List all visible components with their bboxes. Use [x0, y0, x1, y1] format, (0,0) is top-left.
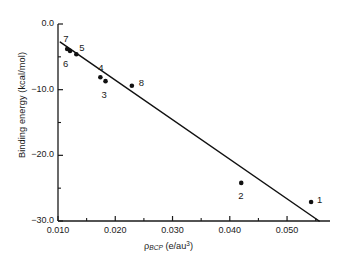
- data-point-label-1: 1: [317, 194, 322, 205]
- y-tick-label: −20.0: [16, 149, 54, 159]
- x-tick-label: 0.030: [151, 225, 195, 235]
- y-tick-label: −30.0: [16, 215, 54, 225]
- binding-energy-vs-rho-bcp-chart: Binding energy (kcal/mol) ρBCP (e/au3) 0…: [0, 0, 337, 268]
- axes: [58, 24, 330, 221]
- data-point-label-4: 4: [98, 62, 103, 73]
- data-point-label-2: 2: [238, 190, 243, 201]
- data-point-label-8: 8: [139, 77, 144, 88]
- x-tick-label: 0.020: [93, 225, 137, 235]
- x-tick-label: 0.040: [208, 225, 252, 235]
- data-point-label-7: 7: [63, 33, 68, 44]
- x-tick-label: 0.010: [36, 225, 80, 235]
- y-tick-label: −10.0: [16, 84, 54, 94]
- data-point-label-3: 3: [102, 89, 107, 100]
- data-point-label-6: 6: [63, 58, 68, 69]
- x-tick-label: 0.050: [265, 225, 309, 235]
- y-tick-label: 0.0: [16, 18, 54, 28]
- data-point-label-5: 5: [79, 42, 84, 53]
